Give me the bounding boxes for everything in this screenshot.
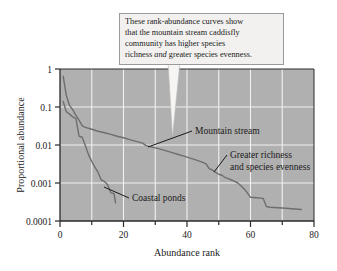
x-tick-marks [60, 221, 314, 227]
y-axis-title: Proportional abundance [15, 97, 26, 193]
callout-line-3: community has higher species [125, 39, 278, 50]
y-tick-label: 0.001 [31, 179, 53, 189]
x-tick-labels: 0 20 40 60 80 [58, 230, 319, 240]
x-axis-title: Abundance rank [154, 247, 220, 258]
y-tick-labels: 1 0.1 0.01 0.001 0.0001 [26, 65, 52, 227]
x-tick-label: 0 [58, 230, 63, 240]
callout-line-4: richness and greater species evenness. [125, 50, 278, 61]
y-tick-label: 0.0001 [26, 217, 52, 227]
x-tick-label: 80 [309, 230, 319, 240]
annotation-coastal-ponds: Coastal ponds [132, 193, 186, 203]
y-tick-marks [55, 69, 60, 221]
callout-line-4-post: greater species evenness. [167, 50, 252, 59]
annotation-greater-richness-line1: Greater richness [230, 150, 292, 160]
x-tick-label: 40 [182, 230, 192, 240]
x-tick-label: 20 [119, 230, 129, 240]
annotation-greater-richness-line2: and species evenness [230, 162, 310, 172]
callout-line-2: that the mountain stream caddisfly [125, 28, 278, 39]
x-tick-label: 60 [246, 230, 256, 240]
callout-emphasis-and: and [154, 50, 166, 59]
y-tick-label: 0.01 [35, 141, 52, 151]
callout-line-1: These rank-abundance curves show [125, 17, 278, 28]
callout-annotation-box: These rank-abundance curves show that th… [119, 13, 284, 65]
y-tick-label: 0.1 [40, 103, 52, 113]
rank-abundance-figure: 1 0.1 0.01 0.001 0.0001 0 20 40 60 80 Ab… [0, 0, 337, 271]
callout-line-4-pre: richness [125, 50, 154, 59]
annotation-mountain-stream: Mountain stream [195, 126, 260, 136]
y-tick-label: 1 [47, 65, 52, 75]
